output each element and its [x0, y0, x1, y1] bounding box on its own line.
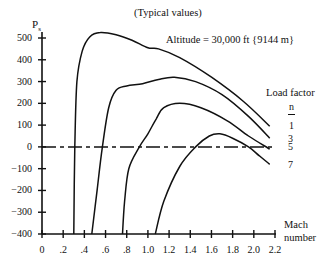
curve-n7 — [155, 134, 269, 234]
legend-entry-n1: 1 — [289, 121, 294, 131]
y-tick-label: 0 — [4, 141, 32, 152]
curve-n5 — [123, 103, 270, 234]
chart-title: (Typical values) — [134, 8, 202, 19]
y-axis-label-sub: s — [38, 25, 41, 33]
y-tick-label: 100 — [4, 119, 32, 130]
load-factor-curves — [74, 33, 270, 234]
x-tick-label: 2.2 — [263, 244, 287, 255]
y-tick-label: 500 — [4, 32, 32, 43]
curve-n1 — [74, 33, 270, 234]
y-tick-label: −200 — [4, 184, 32, 195]
legend-title: Load factor — [266, 88, 315, 99]
legend-entry-n5: 5 — [288, 142, 293, 152]
y-tick-label: 200 — [4, 97, 32, 108]
legend-subtitle: n — [288, 102, 295, 115]
y-axis-label: Ps — [32, 19, 41, 33]
y-tick-label: −300 — [4, 206, 32, 217]
y-tick-label: −100 — [4, 163, 32, 174]
y-tick-label: 400 — [4, 54, 32, 65]
x-axis-label: Mach number — [284, 218, 328, 244]
y-tick-label: −400 — [4, 228, 32, 239]
y-tick-label: 300 — [4, 76, 32, 87]
altitude-annotation: Altitude = 30,000 ft {9144 m} — [166, 35, 294, 46]
legend-entry-n7: 7 — [288, 160, 293, 170]
